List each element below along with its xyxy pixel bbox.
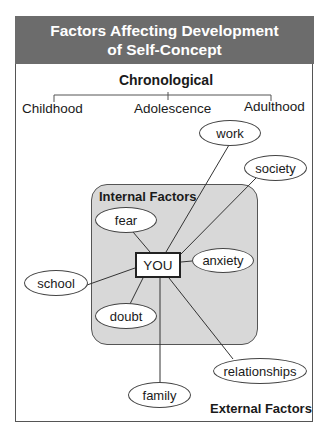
stage-adulthood: Adulthood	[244, 99, 305, 114]
node-you: YOU	[135, 252, 181, 278]
external-factors-label: External Factors	[210, 401, 312, 416]
node-society: society	[244, 155, 307, 181]
internal-factors-label: Internal Factors	[99, 189, 197, 204]
node-fear: fear	[95, 207, 157, 233]
stage-childhood: Childhood	[22, 101, 83, 116]
node-family: family	[128, 382, 191, 408]
node-relationships: relationships	[213, 358, 307, 384]
node-anxiety: anxiety	[192, 248, 254, 273]
stage-adolescence: Adolescence	[134, 101, 211, 116]
node-doubt: doubt	[95, 303, 157, 329]
node-work: work	[199, 120, 261, 146]
node-school: school	[24, 270, 88, 296]
